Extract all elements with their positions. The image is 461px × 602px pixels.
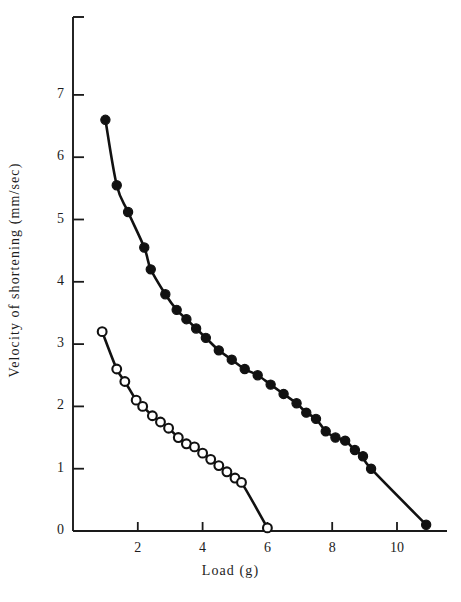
y-tick-label: 7	[42, 86, 64, 102]
data-point-filled	[302, 408, 311, 417]
data-point-filled	[227, 355, 236, 364]
x-tick-label: 6	[255, 540, 279, 556]
y-axis-title-container: Velocity of shortening (mm/sec)	[0, 0, 30, 540]
y-tick-label: 2	[42, 397, 64, 413]
y-axis-title: Velocity of shortening (mm/sec)	[7, 163, 23, 378]
x-axis-title: Load (g)	[0, 563, 461, 579]
series-line	[105, 120, 426, 525]
data-point-filled	[266, 380, 275, 389]
data-point-open	[206, 455, 215, 464]
data-point-open	[174, 433, 183, 442]
data-point-open	[223, 467, 232, 476]
data-point-filled	[172, 305, 181, 314]
series-line	[102, 332, 267, 528]
data-point-filled	[201, 333, 210, 342]
data-point-filled	[341, 436, 350, 445]
data-point-open	[138, 402, 147, 411]
data-point-filled	[422, 520, 431, 529]
data-point-open	[112, 365, 121, 374]
axis-lines	[73, 17, 447, 531]
data-point-filled	[161, 290, 170, 299]
data-point-filled	[358, 452, 367, 461]
data-point-filled	[101, 115, 110, 124]
data-point-open	[156, 418, 165, 427]
data-point-filled	[279, 389, 288, 398]
data-point-open	[98, 327, 107, 336]
data-point-open	[214, 461, 223, 470]
data-point-filled	[311, 414, 320, 423]
x-tick-label: 8	[320, 540, 344, 556]
chart-plot-area	[0, 0, 461, 602]
data-point-filled	[192, 324, 201, 333]
data-point-filled	[253, 371, 262, 380]
data-series-layer	[98, 115, 431, 532]
y-tick-label: 6	[42, 148, 64, 164]
data-point-filled	[321, 427, 330, 436]
data-point-open	[198, 449, 207, 458]
data-point-open	[148, 411, 157, 420]
data-point-open	[263, 523, 272, 532]
x-tick-label: 4	[191, 540, 215, 556]
figure-container: Velocity of shortening (mm/sec) Load (g)…	[0, 0, 461, 602]
caption-fragment	[8, 596, 453, 600]
data-point-filled	[240, 364, 249, 373]
tick-marks	[73, 95, 397, 531]
data-point-filled	[140, 243, 149, 252]
y-tick-label: 3	[42, 335, 64, 351]
x-tick-label: 2	[126, 540, 150, 556]
data-point-open	[190, 442, 199, 451]
series-filled-circles	[101, 115, 431, 529]
y-tick-label: 0	[42, 522, 64, 538]
data-point-filled	[292, 399, 301, 408]
data-point-open	[237, 478, 246, 487]
series-open-circles	[98, 327, 272, 532]
data-point-filled	[112, 181, 121, 190]
data-point-filled	[182, 315, 191, 324]
data-point-filled	[366, 464, 375, 473]
y-tick-label: 1	[42, 460, 64, 476]
y-tick-label: 5	[42, 211, 64, 227]
data-point-open	[120, 377, 129, 386]
x-tick-label: 10	[385, 540, 409, 556]
data-point-filled	[123, 207, 132, 216]
data-point-filled	[214, 346, 223, 355]
data-point-open	[164, 424, 173, 433]
y-tick-label: 4	[42, 273, 64, 289]
data-point-filled	[350, 445, 359, 454]
data-point-filled	[331, 433, 340, 442]
data-point-filled	[146, 265, 155, 274]
